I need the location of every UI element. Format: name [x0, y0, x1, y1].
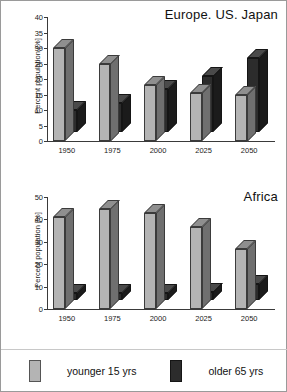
bar-face — [235, 95, 247, 142]
x-axis-tick-label: 2050 — [241, 146, 258, 155]
x-axis-tick-label: 2050 — [241, 314, 258, 323]
x-axis-tick-label: 1975 — [104, 314, 121, 323]
legend-item-older: older 65 yrs — [170, 360, 263, 382]
x-axis-line — [47, 141, 275, 142]
legend-item-younger: younger 15 yrs — [29, 360, 136, 382]
legend-row: younger 15 yrs older 65 yrs — [1, 350, 287, 392]
y-axis-tick-label: 30 — [35, 237, 43, 246]
chart-europe-us-japan: Europe. US. Japan Percent population [%]… — [1, 1, 287, 183]
y-axis-tick-label: 35 — [35, 28, 43, 37]
x-axis-tick-label: 2025 — [195, 314, 212, 323]
legend-label-younger: younger 15 yrs — [67, 365, 136, 377]
bar-side-3d — [202, 218, 211, 309]
chart-africa: Africa Percent population [%] 0102030405… — [1, 183, 287, 349]
bar-side-3d — [168, 80, 177, 132]
bar-side-3d — [247, 86, 256, 142]
y-axis-tick-label: 20 — [35, 260, 43, 269]
bar-2050-younger — [235, 95, 247, 142]
y-axis-tick-label: 25 — [35, 59, 43, 68]
y-axis-tick — [44, 17, 47, 18]
bar-face — [190, 227, 202, 309]
y-axis-tick-label: 40 — [35, 215, 43, 224]
legend-swatch-older — [170, 360, 182, 382]
y-axis-tick-label: 5 — [39, 121, 43, 130]
chart-panel-europe-us-japan: Europe. US. Japan Percent population [%]… — [1, 1, 287, 183]
y-axis-tick — [44, 287, 47, 288]
bar-side-3d — [110, 55, 119, 142]
y-axis-tick-label: 10 — [35, 106, 43, 115]
y-axis-tick-label: 0 — [39, 305, 43, 314]
bar-face — [53, 217, 65, 309]
bar-face — [144, 85, 156, 141]
y-axis-tick-label: 10 — [35, 282, 43, 291]
bar-2025-younger — [190, 227, 202, 309]
bar-face — [190, 93, 202, 141]
x-axis-line — [47, 309, 275, 310]
bar-face — [144, 213, 156, 309]
y-axis-line — [47, 17, 48, 141]
bar-side-3d — [247, 240, 256, 309]
bar-1950-younger — [53, 48, 65, 141]
y-axis-tick — [44, 264, 47, 265]
y-axis-tick — [44, 242, 47, 243]
bar-2000-younger — [144, 85, 156, 141]
bar-side-3d — [202, 84, 211, 141]
y-axis-tick-label: 40 — [35, 13, 43, 22]
y-axis-tick-label: 20 — [35, 75, 43, 84]
figure-canvas: Europe. US. Japan Percent population [%]… — [0, 0, 287, 392]
y-axis-tick-label: 0 — [39, 137, 43, 146]
y-axis-label-wrap: Percent population [%] — [15, 191, 29, 309]
y-axis-line — [47, 197, 48, 309]
legend: younger 15 yrs older 65 yrs — [1, 349, 287, 392]
bar-side-3d — [65, 39, 74, 141]
bar-side-3d — [213, 67, 222, 132]
y-axis-tick — [44, 141, 47, 142]
x-axis-tick-label: 1950 — [58, 314, 75, 323]
bar-2000-younger — [144, 213, 156, 309]
plot-area: 051015202530354019501975200020252050 — [47, 17, 275, 141]
y-axis-tick — [44, 197, 47, 198]
x-axis-tick-label: 1950 — [58, 146, 75, 155]
y-axis-tick — [44, 64, 47, 65]
bar-face — [99, 64, 111, 142]
bar-side-3d — [156, 76, 165, 141]
y-axis-tick-label: 50 — [35, 193, 43, 202]
bar-2050-younger — [235, 249, 247, 309]
y-axis-tick-label: 30 — [35, 44, 43, 53]
bar-side-3d — [110, 200, 119, 309]
y-axis-label-wrap: Percent population [%] — [15, 9, 29, 143]
x-axis-tick-label: 1975 — [104, 146, 121, 155]
x-axis-tick-label: 2025 — [195, 146, 212, 155]
y-axis-tick — [44, 79, 47, 80]
plot-area: 0102030405019501975200020252050 — [47, 197, 275, 309]
bar-2025-younger — [190, 93, 202, 141]
bar-side-3d — [65, 208, 74, 309]
y-axis-tick — [44, 33, 47, 34]
bar-face — [99, 209, 111, 309]
bar-1950-younger — [53, 217, 65, 309]
y-axis-tick — [44, 219, 47, 220]
chart-panel-africa: Africa Percent population [%] 0102030405… — [1, 183, 287, 349]
bar-side-3d — [259, 49, 268, 132]
y-axis-tick — [44, 309, 47, 310]
bar-side-3d — [156, 204, 165, 309]
x-axis-tick-label: 2000 — [150, 146, 167, 155]
x-axis-tick-label: 2000 — [150, 314, 167, 323]
legend-label-older: older 65 yrs — [208, 365, 263, 377]
y-axis-tick — [44, 48, 47, 49]
y-axis-tick — [44, 126, 47, 127]
y-axis-tick — [44, 95, 47, 96]
y-axis-tick-label: 15 — [35, 90, 43, 99]
legend-swatch-younger — [29, 360, 41, 382]
bar-face — [235, 249, 247, 309]
bar-1975-younger — [99, 64, 111, 142]
y-axis-tick — [44, 110, 47, 111]
bar-1975-younger — [99, 209, 111, 309]
bar-face — [53, 48, 65, 141]
